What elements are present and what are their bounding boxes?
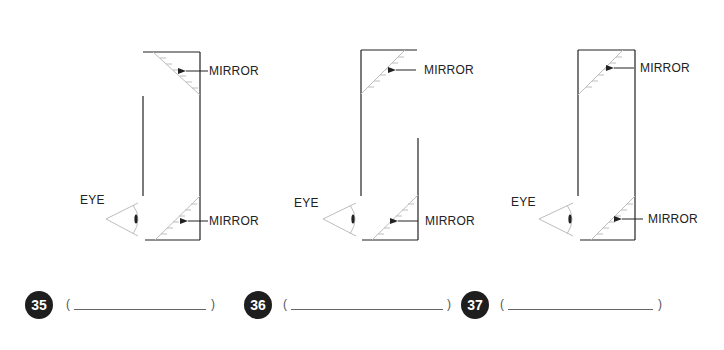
eye-label-37: EYE xyxy=(511,195,536,209)
periscope-37 xyxy=(539,50,643,240)
mirror-label-bottom-35: MIRROR xyxy=(209,214,259,228)
top-mirror xyxy=(578,50,623,95)
answer-line[interactable] xyxy=(74,309,206,310)
open-paren: ( xyxy=(283,297,287,311)
close-paren: ) xyxy=(447,297,451,311)
close-paren: ) xyxy=(658,297,662,311)
bottom-mirror xyxy=(155,196,200,240)
eye-icon xyxy=(323,203,356,236)
mirror-label-bottom-36: MIRROR xyxy=(425,214,475,228)
answer-blank-36[interactable]: ( ) xyxy=(283,297,453,313)
tube-walls xyxy=(578,50,635,240)
top-mirror xyxy=(153,52,200,95)
mirror-label-top-36: MIRROR xyxy=(424,63,474,77)
mirror-label-top-37: MIRROR xyxy=(640,61,690,75)
bottom-mirror xyxy=(372,195,418,240)
answer-blank-37[interactable]: ( ) xyxy=(500,297,665,313)
periscope-36 xyxy=(323,50,418,240)
mirror-label-bottom-37: MIRROR xyxy=(648,212,698,226)
close-paren: ) xyxy=(211,297,215,311)
question-badge-35: 35 xyxy=(25,291,53,319)
eye-label-35: EYE xyxy=(80,193,105,207)
eye-icon xyxy=(106,203,138,236)
tube-walls xyxy=(143,52,200,240)
mirror-label-top-35: MIRROR xyxy=(209,64,259,78)
periscope-35 xyxy=(106,52,208,240)
eye-label-36: EYE xyxy=(294,196,319,210)
answer-line[interactable] xyxy=(508,309,653,310)
bottom-mirror xyxy=(591,196,635,240)
tube-walls xyxy=(361,50,418,240)
question-badge-36: 36 xyxy=(244,291,272,319)
top-mirror xyxy=(361,50,405,94)
open-paren: ( xyxy=(66,297,70,311)
question-badge-37: 37 xyxy=(461,291,489,319)
answer-line[interactable] xyxy=(291,309,443,310)
answer-blank-35[interactable]: ( ) xyxy=(66,297,216,313)
eye-icon xyxy=(539,203,573,236)
open-paren: ( xyxy=(500,297,504,311)
